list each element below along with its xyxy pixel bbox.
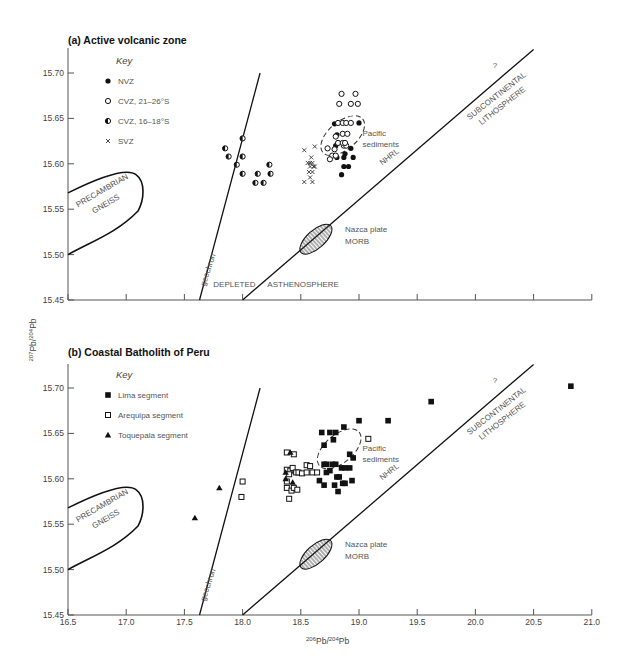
lima-marker bbox=[321, 482, 327, 488]
lima-marker bbox=[341, 424, 347, 430]
lima-marker bbox=[428, 399, 434, 405]
lima-marker bbox=[333, 430, 339, 436]
nazca-label: Nazca plate bbox=[345, 540, 388, 549]
nvz-marker bbox=[339, 172, 344, 177]
toquepala-marker bbox=[192, 515, 198, 521]
data-points bbox=[223, 91, 362, 185]
cvz-south-marker bbox=[325, 146, 330, 151]
arequipa-marker bbox=[315, 470, 320, 475]
y-tick-label: 15.65 bbox=[43, 428, 65, 438]
lima-marker bbox=[331, 437, 337, 443]
svz-marker bbox=[310, 161, 314, 165]
sediments-label: sediments bbox=[362, 140, 398, 149]
subcontinental-question-label: ? bbox=[493, 61, 498, 70]
arequipa-marker bbox=[239, 494, 244, 499]
y-tick-label: 15.50 bbox=[43, 250, 65, 260]
x-tick-label: 20.5 bbox=[525, 617, 542, 627]
arequipa-marker bbox=[304, 470, 309, 475]
legend: KeyLima segmentArequipa segmentToquepala… bbox=[105, 369, 189, 440]
cvz-south-marker bbox=[327, 157, 332, 162]
legend: KeyNVZCVZ, 21–26°SCVZ, 16–18°SSVZ bbox=[105, 55, 169, 146]
legend-entry: SVZ bbox=[118, 137, 134, 146]
nvz-marker bbox=[351, 155, 356, 160]
svz-marker bbox=[310, 170, 314, 174]
x-tick-label: 18.5 bbox=[293, 617, 310, 627]
svz-marker bbox=[307, 170, 311, 174]
cvz-south-marker bbox=[345, 131, 350, 136]
toquepala-marker bbox=[289, 479, 295, 485]
x-tick-label: 20.0 bbox=[467, 617, 484, 627]
legend-entry: CVZ, 21–26°S bbox=[118, 97, 169, 106]
lima-marker bbox=[319, 430, 325, 436]
x-tick-label: 17.0 bbox=[118, 617, 135, 627]
x-tick-label: 16.5 bbox=[60, 617, 77, 627]
legend-entry: Arequipa segment bbox=[118, 411, 184, 420]
morb-label: MORB bbox=[345, 237, 369, 246]
x-tick-label: 17.5 bbox=[176, 617, 193, 627]
svz-marker bbox=[106, 139, 110, 143]
cvz-south-marker bbox=[353, 91, 358, 96]
x-tick-label: 19.0 bbox=[351, 617, 368, 627]
legend-entry: NVZ bbox=[118, 77, 134, 86]
toquepala-marker bbox=[216, 485, 222, 491]
panel-b: (b) Coastal Batholith of Peru15.4515.501… bbox=[43, 346, 601, 627]
arequipa-marker bbox=[240, 479, 245, 484]
y-tick-label: 15.70 bbox=[43, 68, 65, 78]
lima-marker bbox=[342, 481, 348, 487]
key-title: Key bbox=[116, 55, 134, 66]
x-tick-label: 19.5 bbox=[409, 617, 426, 627]
x-tick-label: 18.0 bbox=[234, 617, 251, 627]
subcontinental-question-label: ? bbox=[493, 376, 498, 385]
lima-marker bbox=[349, 478, 355, 484]
cvz-south-marker bbox=[355, 101, 360, 106]
lima-marker bbox=[350, 455, 356, 461]
lima-marker bbox=[336, 474, 342, 480]
y-tick-label: 15.55 bbox=[43, 519, 65, 529]
y-tick-label: 15.70 bbox=[43, 383, 65, 393]
y-tick-label: 15.55 bbox=[43, 204, 65, 214]
sediments-label: sediments bbox=[362, 455, 398, 464]
lima-marker bbox=[332, 482, 338, 488]
cvz-south-marker bbox=[337, 101, 342, 106]
nvz-marker bbox=[341, 164, 346, 169]
lima-marker bbox=[105, 392, 111, 398]
lima-marker bbox=[347, 465, 353, 471]
key-title: Key bbox=[116, 369, 134, 380]
toquepala-marker bbox=[105, 432, 111, 438]
depleted-label: DEPLETED bbox=[213, 280, 255, 289]
cvz-south-marker bbox=[333, 134, 338, 139]
arequipa-marker bbox=[366, 436, 371, 441]
svz-marker bbox=[310, 180, 314, 184]
nvz-marker bbox=[356, 120, 361, 125]
nvz-marker bbox=[105, 78, 110, 83]
y-tick-label: 15.50 bbox=[43, 565, 65, 575]
nhrl-label: NHRL bbox=[378, 461, 401, 482]
nazca-morb-region bbox=[295, 219, 337, 259]
panel-title: (b) Coastal Batholith of Peru bbox=[68, 346, 210, 358]
arequipa-marker bbox=[106, 413, 111, 418]
pb-isotope-figure: (a) Active volcanic zone15.4515.5015.551… bbox=[0, 0, 625, 668]
lima-marker bbox=[335, 489, 341, 495]
panel-title: (a) Active volcanic zone bbox=[68, 34, 187, 46]
lima-marker bbox=[568, 383, 574, 389]
x-axis-label: 206Pb/204Pb bbox=[306, 636, 349, 646]
nvz-marker bbox=[346, 164, 351, 169]
pacific-label: Pacific bbox=[362, 444, 386, 453]
y-tick-label: 15.60 bbox=[43, 159, 65, 169]
arequipa-marker bbox=[308, 464, 313, 469]
lima-marker bbox=[385, 418, 391, 424]
cvz-south-marker bbox=[333, 153, 338, 158]
lima-marker bbox=[333, 461, 339, 467]
cvz-south-marker bbox=[342, 140, 347, 145]
y-tick-label: 15.45 bbox=[43, 295, 65, 305]
cvz-south-marker bbox=[332, 147, 337, 152]
y-axis-label: 207Pb/204Pb bbox=[28, 318, 38, 361]
morb-label: MORB bbox=[345, 552, 369, 561]
nazca-label: Nazca plate bbox=[345, 225, 388, 234]
lima-marker bbox=[356, 418, 362, 424]
y-tick-label: 15.60 bbox=[43, 474, 65, 484]
svz-marker bbox=[302, 180, 306, 184]
nazca-morb-region bbox=[295, 534, 337, 574]
legend-entry: Toquepala segment bbox=[118, 431, 189, 440]
x-tick-label: 21.0 bbox=[584, 617, 601, 627]
